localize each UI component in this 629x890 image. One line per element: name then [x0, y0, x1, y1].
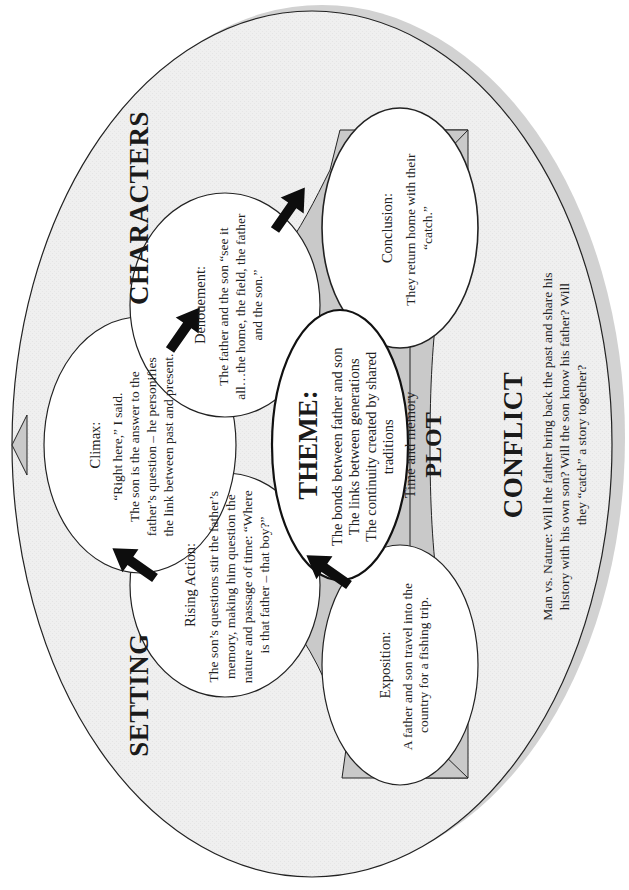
rising-action-title: Rising Action: — [182, 543, 198, 627]
exposition-title: Exposition: — [377, 632, 393, 699]
characters-label: CHARACTERS — [124, 111, 154, 305]
conclusion-title: Conclusion: — [379, 193, 395, 263]
theme-line: The bonds between father and son — [329, 347, 345, 546]
theme-line: traditions — [380, 419, 396, 474]
diagram-canvas: SETTING CHARACTERS PLOT CONFLICT THEME: … — [0, 0, 629, 890]
exposition-text: A father and son travel into the country… — [400, 580, 431, 751]
denouement-title: Denouement: — [192, 266, 208, 344]
climax-title: Climax: — [87, 422, 103, 469]
conflict-label: CONFLICT — [498, 372, 528, 519]
plot-label: PLOT — [420, 412, 446, 477]
theme-title: THEME: — [293, 390, 323, 500]
theme-line: The continuity created by shared — [363, 351, 379, 542]
plot-diagram: SETTING CHARACTERS PLOT CONFLICT THEME: … — [0, 0, 629, 890]
theme-line: Time and memory — [402, 391, 418, 498]
setting-label: SETTING — [124, 633, 154, 757]
theme-line: The links between generations — [346, 358, 362, 535]
